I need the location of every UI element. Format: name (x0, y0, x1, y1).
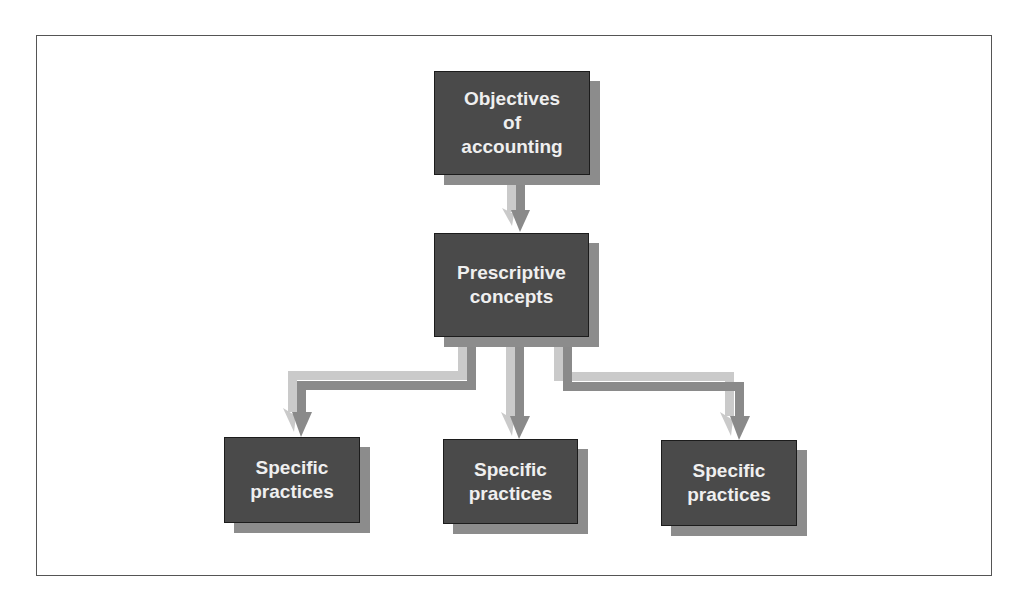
node-prescriptive-concepts: Prescriptive concepts (434, 233, 589, 337)
arrow-prescriptive-to-practices-left (283, 338, 476, 437)
node-specific-practices-left: Specific practices (224, 437, 360, 523)
node-specific-practices-right: Specific practices (661, 440, 797, 526)
node-label: Specific practices (687, 459, 770, 507)
node-label: Specific practices (250, 456, 333, 504)
box: Specific practices (224, 437, 360, 523)
node-label: Specific practices (469, 458, 552, 506)
node-label: Prescriptive concepts (457, 261, 566, 309)
box: Specific practices (661, 440, 797, 526)
node-label: Objectives of accounting (461, 87, 562, 159)
box: Specific practices (443, 439, 578, 524)
node-specific-practices-middle: Specific practices (443, 439, 578, 524)
box: Prescriptive concepts (434, 233, 589, 337)
arrow-prescriptive-to-practices-middle (501, 338, 530, 439)
node-objectives-of-accounting: Objectives of accounting (434, 71, 590, 175)
box: Objectives of accounting (434, 71, 590, 175)
arrow-prescriptive-to-practices-right (554, 338, 750, 440)
